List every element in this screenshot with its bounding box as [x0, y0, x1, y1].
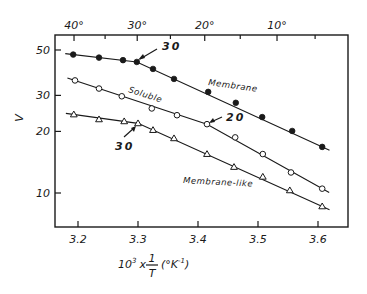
data-point-soluble — [174, 112, 180, 118]
top-tick-label: 10° — [267, 19, 287, 32]
x-tick-label: 3.3 — [129, 233, 147, 246]
data-point-soluble — [260, 151, 266, 157]
annotation-membrane-like: Membrane-like — [183, 175, 253, 189]
y-tick-label: 50 — [36, 44, 50, 57]
top-axis-ticks: 40°30°20°10° — [64, 19, 315, 41]
data-point-membrane — [70, 52, 76, 58]
x-axis-label-prefix: 103x — [118, 257, 146, 271]
x-axis-label: 103x 1 T (°K-1) — [118, 252, 189, 280]
arrow-label-30-membrane: 30 — [162, 40, 181, 53]
arrow-head-icon — [131, 126, 136, 132]
data-point-membrane — [289, 128, 295, 134]
y-axis-label: V — [13, 113, 26, 122]
data-point-soluble — [72, 78, 78, 84]
data-point-membrane — [96, 55, 102, 61]
data-point-membrane — [233, 100, 239, 106]
arrow-annotation-membrane-like: 30 — [115, 126, 136, 153]
data-point-membrane-like — [259, 173, 266, 179]
data-point-membrane — [150, 66, 156, 72]
x-axis-ticks: 3.23.33.43.53.6 — [69, 221, 327, 246]
y-tick-label: 10 — [36, 187, 50, 200]
y-tick-label: 30 — [36, 89, 50, 102]
x-axis-label-unit: (°K-1) — [161, 257, 189, 271]
data-point-soluble — [149, 106, 155, 112]
top-tick-label: 40° — [64, 19, 84, 32]
data-point-soluble — [204, 121, 210, 127]
data-point-membrane-like — [96, 116, 103, 122]
x-axis-label-numerator: 1 — [149, 252, 156, 265]
data-point-membrane-like — [231, 164, 238, 170]
series-line-membrane — [65, 54, 329, 151]
top-tick-label: 20° — [195, 19, 215, 32]
data-point-soluble — [232, 135, 238, 141]
x-tick-label: 3.6 — [309, 233, 327, 246]
y-axis-ticks: 10203050 — [36, 44, 61, 200]
chart: 3.23.33.43.53.6 10203050 40°30°20°10° Me… — [0, 0, 367, 294]
data-point-soluble — [319, 186, 325, 192]
data-point-membrane — [205, 89, 211, 95]
data-point-membrane — [319, 144, 325, 150]
data-point-soluble — [288, 170, 294, 176]
top-tick-label: 30° — [127, 19, 147, 32]
x-tick-label: 3.2 — [69, 233, 87, 246]
data-point-membrane — [171, 76, 177, 82]
data-point-membrane-like — [286, 187, 293, 193]
arrow-label-30-membrane-like: 30 — [115, 140, 134, 153]
arrow-label-20-soluble: 20 — [226, 111, 245, 124]
data-point-membrane — [134, 59, 140, 65]
annotation-soluble: Soluble — [127, 84, 163, 104]
y-tick-label: 20 — [36, 125, 50, 138]
arrow-annotation-soluble: 20 — [209, 111, 245, 124]
annotation-membrane: Membrane — [208, 77, 258, 94]
x-tick-label: 3.5 — [249, 233, 267, 246]
x-tick-label: 3.4 — [189, 233, 207, 246]
data-point-membrane-like — [171, 135, 178, 141]
arrow-head-icon — [138, 54, 145, 60]
data-point-membrane — [120, 57, 126, 63]
x-axis-label-denominator: T — [149, 267, 157, 280]
arrow-head-icon — [209, 118, 215, 123]
data-point-membrane — [259, 114, 265, 120]
data-point-soluble — [96, 86, 102, 92]
series-line-membrane-like — [66, 113, 330, 209]
data-point-soluble — [119, 93, 125, 99]
arrow-annotation-membrane: 30 — [138, 40, 181, 60]
